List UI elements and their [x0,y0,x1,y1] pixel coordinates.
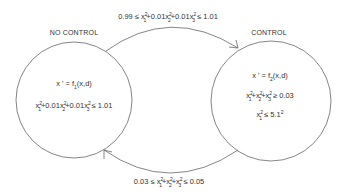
dynamics-control: x ' = f2(x,d) [252,71,288,80]
guard-to-no-control: 0.03 ≤ x21+x22+x23 ≤ 0.05 [134,177,205,186]
state-no-control-circle [16,42,132,158]
invariant-control-1: x21+x22+x23 ≥ 0.03 [246,91,294,100]
transition-arrow-to-control [106,27,238,51]
invariant-control-2: x21 ≤ 5.12 [257,110,284,119]
guard-to-control: 0.99 ≤ x21+0.01x22+0.01x23 ≤ 1.01 [118,12,218,21]
transition-arrow-to-no-control [104,150,238,173]
state-title-control: CONTROL [251,29,287,36]
invariant-no-control: x21+0.01x22+0.01x23 ≤ 1.01 [36,101,113,110]
dynamics-no-control: x ' = f1(x,d) [56,79,92,88]
state-title-no-control: NO CONTROL [50,29,99,36]
